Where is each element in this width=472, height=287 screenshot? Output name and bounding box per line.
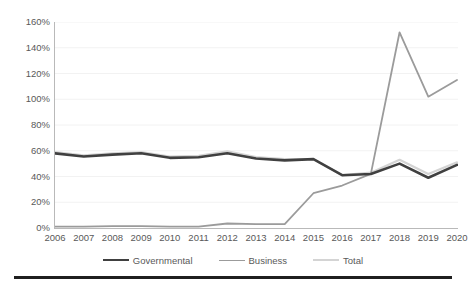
y-tick-label: 100% — [4, 94, 50, 104]
legend-item-total[interactable]: Total — [313, 255, 363, 266]
legend-swatch-icon — [313, 259, 339, 261]
legend-swatch-icon — [103, 259, 129, 261]
legend-label: Total — [343, 255, 363, 266]
legend-item-governmental[interactable]: Governmental — [103, 255, 193, 266]
x-axis-line — [54, 228, 458, 229]
y-tick-label: 40% — [4, 172, 50, 182]
series-line-business — [55, 32, 457, 226]
chart-legend: GovernmentalBusinessTotal — [0, 252, 466, 268]
legend-swatch-icon — [219, 260, 245, 261]
plot-area — [55, 22, 458, 228]
legend-label: Business — [249, 255, 288, 266]
bottom-horizontal-rule — [14, 276, 452, 279]
legend-item-business[interactable]: Business — [219, 255, 288, 266]
y-tick-label: 140% — [4, 43, 50, 53]
plot-svg — [55, 22, 458, 228]
x-axis-tick-labels: 2006200720082009201020112012201320142015… — [55, 232, 458, 246]
y-tick-label: 60% — [4, 146, 50, 156]
y-tick-label: 20% — [4, 197, 50, 207]
y-tick-label: 120% — [4, 69, 50, 79]
y-tick-label: 80% — [4, 120, 50, 130]
x-tick-label: 2020 — [440, 232, 472, 244]
y-tick-label: 160% — [4, 17, 50, 27]
legend-label: Governmental — [133, 255, 193, 266]
